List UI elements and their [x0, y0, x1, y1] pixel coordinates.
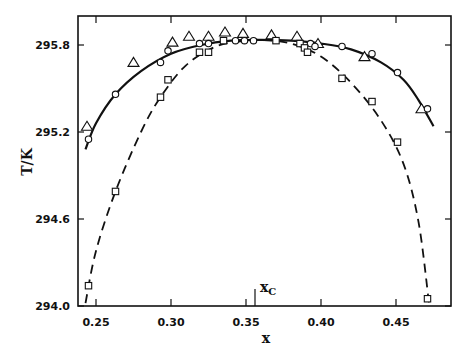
triangle-marker [220, 27, 231, 36]
xc-annotation: xC [255, 279, 276, 306]
square-marker [220, 37, 226, 43]
circle-marker [312, 43, 318, 49]
circle-marker [339, 43, 345, 49]
triangle-marker [203, 31, 214, 40]
circle-marker [196, 40, 202, 46]
square-marker [196, 49, 202, 55]
square-marker [157, 94, 163, 100]
fit-curves [86, 40, 434, 303]
square-marker [424, 296, 430, 302]
triangle-marker [292, 31, 303, 40]
square-marker [304, 49, 310, 55]
dashed-fit-curve [86, 40, 430, 303]
circle-marker [424, 106, 430, 112]
circle-marker [157, 59, 163, 65]
square-marker [165, 77, 171, 83]
square-marker [205, 49, 211, 55]
circle-marker [232, 37, 238, 43]
circle-marker [112, 91, 118, 97]
square-marker [339, 75, 345, 81]
square-marker [85, 283, 91, 289]
circle-marker [205, 40, 211, 46]
circle-marker [250, 37, 256, 43]
triangle-marker [167, 37, 178, 46]
square-marker [369, 98, 375, 104]
square-marker [273, 37, 279, 43]
phase-diagram-chart: 294.0294.6295.2295.8 0.250.300.350.400.4… [0, 0, 469, 363]
x-tick-label: 0.35 [232, 316, 259, 329]
square-marker [112, 188, 118, 194]
circle-marker [165, 48, 171, 54]
triangle-marker [238, 28, 249, 37]
x-tick-label: 0.45 [382, 316, 409, 329]
x-tick-label: 0.25 [82, 316, 109, 329]
triangle-marker [82, 121, 93, 130]
y-tick-label: 294.0 [35, 300, 70, 313]
triangle-marker [128, 57, 139, 66]
triangle-marker [184, 31, 195, 40]
x-tick-label: 0.40 [307, 316, 334, 329]
y-axis-label: T/K [19, 147, 35, 176]
square-marker [394, 139, 400, 145]
circle-marker [369, 51, 375, 57]
y-tick-label: 294.6 [35, 213, 70, 226]
data-points [82, 27, 431, 302]
x-axis-label: x [262, 330, 271, 346]
xc-label: xC [260, 279, 276, 297]
circle-marker [241, 37, 247, 43]
circle-marker [85, 136, 91, 142]
circle-marker [394, 69, 400, 75]
y-axis: 294.0294.6295.2295.8 [35, 39, 451, 313]
solid-fit-curve [86, 40, 434, 149]
y-tick-label: 295.2 [35, 126, 70, 139]
x-tick-label: 0.30 [157, 316, 184, 329]
y-tick-label: 295.8 [35, 39, 70, 52]
